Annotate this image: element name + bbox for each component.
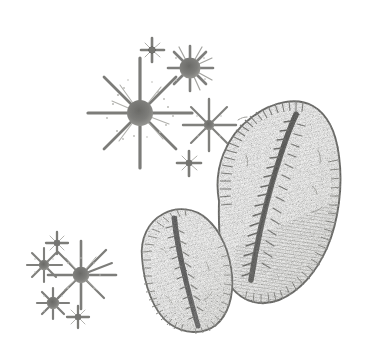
star-cluster-upper-core <box>54 240 60 246</box>
star-medium-upper-right <box>168 46 213 91</box>
star-medium-upper-right-core <box>180 58 201 79</box>
star-small-below-core <box>186 160 193 167</box>
star-cluster-large-core <box>73 267 90 284</box>
star-large-upper-core <box>127 100 153 126</box>
illustration-canvas <box>0 0 369 362</box>
star-medium-right-core <box>204 120 214 130</box>
engraving-figure: Cowrie shells and stars engraving Monoch… <box>0 0 369 362</box>
star-cluster-lower <box>37 288 69 319</box>
star-cluster-corner-core <box>75 314 81 320</box>
star-cluster-lower-core <box>47 297 59 309</box>
star-cluster-left-core <box>39 260 49 270</box>
star-small-top-core-fill <box>149 47 156 54</box>
